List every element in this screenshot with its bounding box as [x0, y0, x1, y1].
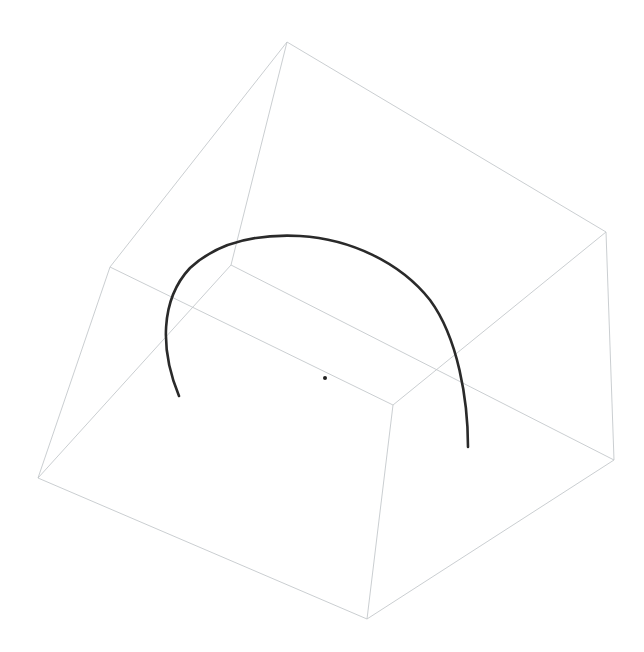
edge-left_mid-bottom_left [38, 267, 110, 478]
edge-top-left_mid [110, 42, 287, 267]
edge-front_inner-bottom [367, 405, 393, 619]
edge-left_mid-front_inner [110, 267, 393, 405]
box-edges [38, 42, 614, 619]
wireframe-diagram [0, 0, 644, 652]
edge-top-right [287, 42, 606, 232]
edge-right-front_inner [393, 232, 606, 405]
edge-top-inner [231, 42, 287, 265]
edge-inner-bottom_right [231, 265, 614, 460]
arc-curve [166, 236, 468, 447]
center-point [323, 376, 327, 380]
edge-bottom-bottom_right [367, 460, 614, 619]
edge-bottom_left-bottom [38, 478, 367, 619]
edge-right-bottom_right [606, 232, 614, 460]
edge-inner-bottom_left [38, 265, 231, 478]
